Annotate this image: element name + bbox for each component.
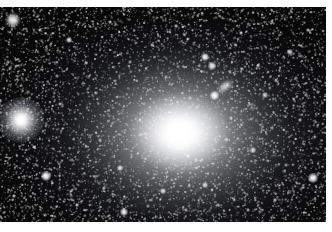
star-point — [164, 75, 167, 78]
star-point — [194, 158, 198, 162]
star-point — [287, 49, 292, 54]
star-glow — [0, 97, 44, 143]
star-diffraction-spike — [0, 105, 43, 135]
star-point — [270, 126, 273, 129]
star-point — [41, 171, 52, 182]
galaxy-nucleus — [0, 7, 326, 222]
star-point — [306, 28, 311, 33]
star-diffraction-spike — [15, 94, 26, 146]
star-point — [128, 60, 131, 63]
star-diffraction-spike — [3, 94, 38, 146]
sky-plate — [0, 7, 326, 222]
star-diffraction-spike — [10, 95, 31, 145]
star-point — [239, 31, 244, 36]
star-point — [229, 116, 233, 120]
star-diffraction-spike — [0, 108, 50, 133]
star-point — [201, 53, 209, 61]
star-point — [43, 213, 47, 217]
star-point — [70, 158, 73, 161]
star-diffraction-spike — [5, 104, 38, 137]
star-point — [38, 28, 42, 32]
star-point — [174, 24, 179, 29]
astronomy-photo-frame — [0, 0, 332, 232]
star-point — [146, 204, 149, 207]
star-diffraction-spike — [2, 101, 41, 140]
star-diffraction-spike — [16, 98, 26, 142]
star-point — [256, 64, 259, 67]
star-point — [108, 20, 112, 24]
companion-galaxy-nucleus — [210, 91, 219, 100]
star-point — [58, 102, 62, 106]
star-point — [84, 61, 88, 65]
star-point — [6, 60, 9, 63]
star-point — [12, 194, 17, 199]
deep-sky-background — [0, 7, 326, 222]
star-point — [188, 96, 191, 99]
star-diffraction-spike — [2, 107, 40, 133]
galaxy-core — [0, 7, 326, 222]
star-point — [250, 147, 255, 152]
star-point — [202, 182, 208, 188]
star-point — [32, 145, 36, 149]
star-point — [294, 76, 297, 79]
star-diffraction-spike — [3, 94, 38, 146]
star-point — [308, 173, 318, 183]
photo-border-right — [326, 0, 332, 232]
star-diffraction-spike — [0, 108, 50, 133]
star-diffraction-spike — [0, 114, 47, 125]
bright-foreground-star — [0, 89, 52, 151]
star-point — [98, 138, 102, 142]
star-point — [284, 163, 288, 167]
photo-border-top — [0, 0, 332, 7]
star-point — [120, 208, 129, 217]
star-point — [224, 138, 227, 141]
background-star-speckle-field — [0, 7, 326, 222]
star-point — [102, 186, 105, 189]
star-point — [6, 13, 20, 27]
foreground-star-speckle — [0, 7, 326, 222]
photo-border-bottom — [0, 222, 332, 232]
star-diffraction-spike — [0, 119, 43, 120]
star-point — [246, 208, 250, 212]
star-point — [316, 90, 320, 94]
star-point — [262, 92, 267, 97]
star-diffraction-spike — [12, 99, 30, 141]
star-point — [150, 43, 154, 47]
star-point — [138, 118, 142, 122]
galaxy-mid-halo — [0, 7, 326, 222]
star-point — [26, 90, 29, 93]
star-diffraction-spike — [0, 115, 43, 125]
galaxy-outer-halo — [0, 7, 326, 222]
star-point — [55, 74, 59, 78]
photographic-plate-grain — [0, 7, 326, 222]
star-point — [273, 198, 278, 203]
star-diffraction-spike — [20, 89, 21, 151]
star-point — [75, 203, 80, 208]
star-point — [184, 208, 188, 212]
star-point — [208, 62, 215, 69]
star-point — [117, 165, 124, 172]
star-point — [298, 118, 302, 122]
star-point — [160, 188, 166, 194]
star-point — [94, 91, 97, 94]
star-point — [66, 37, 72, 43]
star-point — [216, 203, 220, 207]
